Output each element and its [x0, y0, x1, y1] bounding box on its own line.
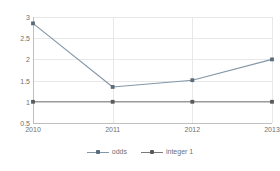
- x-axis-tick-label: 2012: [185, 126, 201, 134]
- data-point-marker: [31, 100, 35, 104]
- y-axis-tick-label: 3: [26, 14, 30, 21]
- gridline-vertical: [272, 17, 273, 123]
- series-svg: [33, 17, 272, 123]
- data-point-marker: [270, 100, 274, 104]
- x-axis-tick-label: 2013: [264, 126, 280, 134]
- y-axis-tick-label: 2.5: [20, 35, 30, 42]
- x-axis-tick-label: 2010: [25, 126, 41, 134]
- legend-marker-icon: [141, 148, 163, 156]
- x-axis-line: [33, 123, 272, 124]
- series-plot: [33, 17, 272, 123]
- x-axis-tick-label: 2011: [105, 126, 120, 134]
- data-point-marker: [111, 85, 115, 89]
- data-point-marker: [270, 58, 274, 62]
- data-point-marker: [190, 100, 194, 104]
- data-point-marker: [31, 21, 35, 25]
- legend-item[interactable]: odds: [87, 148, 127, 156]
- legend-marker-icon: [87, 148, 109, 156]
- legend-item-label: integer 1: [166, 148, 193, 156]
- series-line: [33, 23, 272, 87]
- data-point-marker: [190, 78, 194, 82]
- legend-item-label: odds: [112, 148, 127, 156]
- y-axis-tick-label: 1.5: [20, 77, 30, 84]
- data-point-marker: [111, 100, 115, 104]
- line-chart: 32.521.510.5 2010201120122013 oddsintege…: [0, 0, 280, 171]
- chart-legend: oddsinteger 1: [0, 148, 280, 156]
- y-axis-tick-label: 2: [26, 56, 30, 63]
- legend-item[interactable]: integer 1: [141, 148, 193, 156]
- y-axis-tick-label: 1: [26, 98, 30, 105]
